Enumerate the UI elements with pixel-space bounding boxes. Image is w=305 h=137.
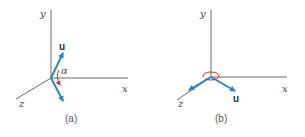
panel-b: y x z u (b) xyxy=(177,8,288,124)
caption-b: (b) xyxy=(215,113,227,124)
vector-u-label: u xyxy=(59,41,65,52)
diagram-canvas: y x z u α (a) y x z u (b) xyxy=(0,0,305,137)
angle-label: α xyxy=(61,65,68,76)
vector-z-direction xyxy=(189,77,211,90)
vector-u-label: u xyxy=(233,93,239,104)
y-axis-label: y xyxy=(199,8,206,19)
vector-reflected xyxy=(51,78,63,101)
z-axis-label: z xyxy=(18,98,25,109)
caption-a: (a) xyxy=(65,113,77,124)
z-axis xyxy=(16,78,51,99)
panel-a: y x z u α (a) xyxy=(16,8,128,124)
y-axis-label: y xyxy=(39,8,46,19)
x-axis-label: x xyxy=(122,83,128,94)
x-axis-label: x xyxy=(282,83,288,94)
z-axis-label: z xyxy=(177,98,184,109)
